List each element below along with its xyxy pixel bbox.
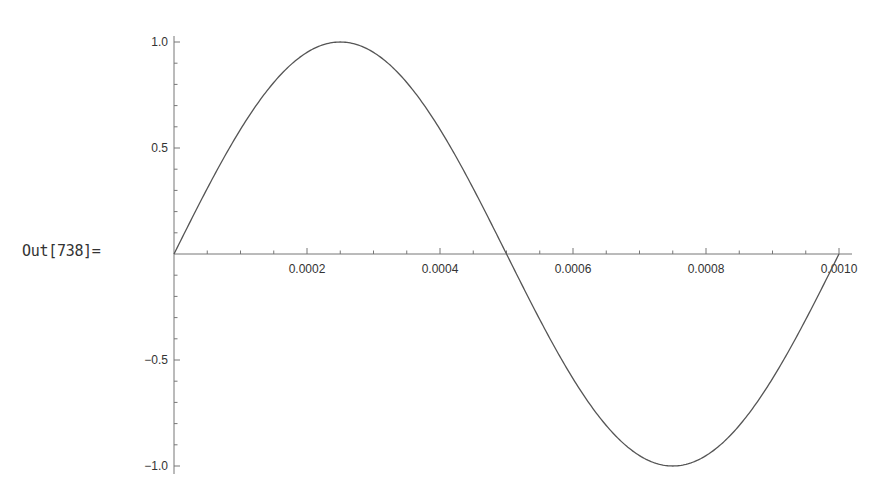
y-tick-label: 1.0 — [151, 35, 168, 49]
y-tick-label: 0.5 — [151, 141, 168, 155]
x-tick-label: 0.0010 — [821, 262, 858, 276]
x-tick-label: 0.0002 — [289, 262, 326, 276]
x-tick-label: 0.0006 — [555, 262, 592, 276]
x-tick-label: 0.0004 — [422, 262, 459, 276]
x-tick-label: 0.0008 — [688, 262, 725, 276]
y-tick-label: −0.5 — [144, 353, 168, 367]
y-tick-label: −1.0 — [144, 459, 168, 473]
sine-plot: 0.00020.00040.00060.00080.00101.00.5−0.5… — [0, 0, 889, 500]
plot-axes — [174, 36, 852, 474]
